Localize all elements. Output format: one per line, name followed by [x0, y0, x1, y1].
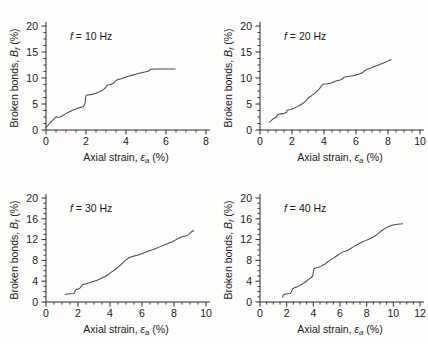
x-tick-label: 0: [43, 135, 49, 147]
x-tick-label: 10: [387, 307, 399, 319]
y-axis-title: Broken bonds, Bf (%): [8, 200, 22, 299]
y-axis-title: Broken bonds, Bf (%): [222, 200, 236, 299]
x-tick-label: 2: [75, 307, 81, 319]
x-tick-label: 4: [107, 307, 113, 319]
frequency-annotation: f = 10 Hz: [70, 30, 112, 42]
y-tick-label: 0: [32, 296, 38, 308]
frequency-annotation: f = 20 Hz: [284, 30, 326, 42]
plot-area: 0246810048121620f = 30 HzAxial strain, ε…: [0, 172, 214, 344]
y-tick-label: 0: [246, 124, 252, 136]
data-curve: [65, 231, 193, 294]
figure-container: 0246805101520f = 10 HzAxial strain, εa (…: [0, 0, 428, 344]
x-tick-label: 2: [284, 307, 290, 319]
x-tick-label: 12: [414, 307, 426, 319]
y-tick-label: 20: [240, 192, 252, 204]
y-tick-label: 15: [240, 46, 252, 58]
y-tick-label: 16: [240, 213, 252, 225]
y-tick-label: 12: [26, 233, 38, 245]
x-tick-label: 6: [163, 135, 169, 147]
frequency-annotation: f = 40 Hz: [284, 202, 326, 214]
y-tick-label: 20: [26, 20, 38, 32]
y-tick-label: 0: [246, 296, 252, 308]
x-tick-label: 0: [257, 135, 263, 147]
x-tick-label: 4: [123, 135, 129, 147]
y-tick-label: 15: [26, 46, 38, 58]
plot-area: 024681005101520f = 20 HzAxial strain, εa…: [214, 0, 428, 172]
x-tick-label: 2: [83, 135, 89, 147]
x-axis-title: Axial strain, εa (%): [297, 151, 382, 165]
data-curve: [283, 224, 403, 298]
x-axis-title: Axial strain, εa (%): [297, 323, 382, 337]
x-tick-label: 6: [139, 307, 145, 319]
y-tick-label: 10: [26, 72, 38, 84]
frequency-annotation: f = 30 Hz: [70, 202, 112, 214]
plot-panel-20hz: 024681005101520f = 20 HzAxial strain, εa…: [214, 0, 428, 172]
y-tick-label: 5: [32, 98, 38, 110]
y-tick-label: 8: [32, 254, 38, 266]
plot-area: 024681012048121620f = 40 HzAxial strain,…: [214, 172, 428, 344]
x-tick-label: 0: [257, 307, 263, 319]
x-tick-label: 4: [321, 135, 327, 147]
x-axis-title: Axial strain, εa (%): [83, 323, 168, 337]
x-tick-label: 8: [385, 135, 391, 147]
x-tick-label: 6: [337, 307, 343, 319]
y-tick-label: 20: [26, 192, 38, 204]
plot-panel-30hz: 0246810048121620f = 30 HzAxial strain, ε…: [0, 172, 214, 344]
x-tick-label: 10: [414, 135, 426, 147]
data-curve: [46, 69, 175, 128]
y-tick-label: 0: [32, 124, 38, 136]
y-axis-title: Broken bonds, Bf (%): [8, 28, 22, 127]
x-tick-label: 2: [289, 135, 295, 147]
y-tick-label: 5: [246, 98, 252, 110]
plot-panel-10hz: 0246805101520f = 10 HzAxial strain, εa (…: [0, 0, 214, 172]
x-tick-label: 4: [310, 307, 316, 319]
y-tick-label: 16: [26, 213, 38, 225]
y-tick-label: 8: [246, 254, 252, 266]
x-tick-label: 8: [203, 135, 209, 147]
y-tick-label: 20: [240, 20, 252, 32]
plot-area: 0246805101520f = 10 HzAxial strain, εa (…: [0, 0, 214, 172]
plot-panel-40hz: 024681012048121620f = 40 HzAxial strain,…: [214, 172, 428, 344]
y-tick-label: 10: [240, 72, 252, 84]
y-tick-label: 12: [240, 233, 252, 245]
y-axis-title: Broken bonds, Bf (%): [222, 28, 236, 127]
x-tick-label: 6: [353, 135, 359, 147]
x-axis-title: Axial strain, εa (%): [83, 151, 168, 165]
x-tick-label: 0: [43, 307, 49, 319]
x-tick-label: 8: [364, 307, 370, 319]
x-tick-label: 8: [171, 307, 177, 319]
y-tick-label: 4: [32, 275, 38, 287]
x-tick-label: 10: [200, 307, 212, 319]
data-curve: [270, 60, 392, 122]
y-tick-label: 4: [246, 275, 252, 287]
